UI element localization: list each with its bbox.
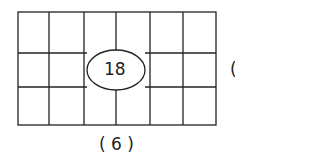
edge-fragment: ( [230,59,235,79]
answer-caption: ( 6 ) [99,134,134,154]
center-value: 18 [104,59,126,79]
